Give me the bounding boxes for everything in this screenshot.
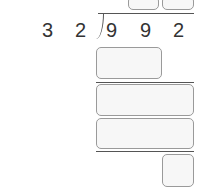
division-bar <box>98 13 194 14</box>
dividend-digit: 9 <box>106 20 117 40</box>
dividend-digit: 2 <box>173 20 184 40</box>
divisor-digit: 3 <box>42 20 53 40</box>
division-bracket <box>95 13 104 39</box>
quotient-ones-input[interactable] <box>162 0 194 10</box>
remainder-input[interactable] <box>162 154 194 187</box>
subtraction-line <box>96 82 194 83</box>
step2-product-input[interactable] <box>96 118 194 149</box>
step1-product-input[interactable] <box>96 47 162 79</box>
quotient-tens-input[interactable] <box>128 0 159 10</box>
step1-remainder-input[interactable] <box>96 84 194 116</box>
divisor-digit: 2 <box>75 20 86 40</box>
dividend-digit: 9 <box>140 20 151 40</box>
subtraction-line <box>96 151 194 152</box>
